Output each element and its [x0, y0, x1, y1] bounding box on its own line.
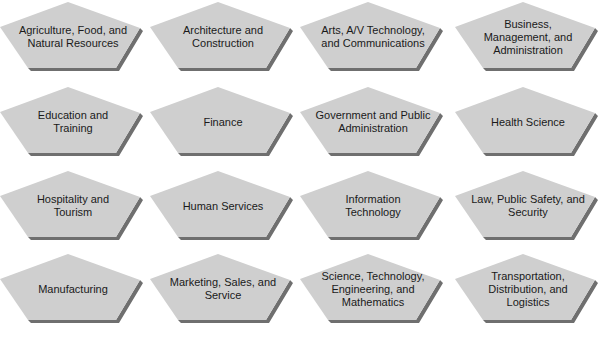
- cluster-label: Manufacturing: [10, 258, 136, 320]
- cluster-label: Finance: [160, 91, 286, 153]
- cluster-shape: Science, Technology, Engineering, and Ma…: [300, 254, 446, 328]
- cluster-shape: Finance: [150, 87, 296, 161]
- cluster-shape: Government and Public Administration: [300, 87, 446, 161]
- cluster-label: Human Services: [160, 175, 286, 237]
- figure-caption-cutoff: [110, 333, 410, 339]
- cluster-label: Arts, A/V Technology, and Communications: [310, 6, 436, 68]
- cluster-label: Science, Technology, Engineering, and Ma…: [310, 258, 436, 320]
- cluster-label: Marketing, Sales, and Service: [160, 258, 286, 320]
- cluster-shape: Human Services: [150, 171, 296, 245]
- cluster-shape: Architecture and Construction: [150, 2, 296, 76]
- cluster-shape: Education and Training: [0, 87, 146, 161]
- cluster-shape: Arts, A/V Technology, and Communications: [300, 2, 446, 76]
- cluster-label: Hospitality and Tourism: [10, 175, 136, 237]
- cluster-shape: Manufacturing: [0, 254, 146, 328]
- cluster-shape: Hospitality and Tourism: [0, 171, 146, 245]
- cluster-label: Information Technology: [310, 175, 436, 237]
- cluster-label: Government and Public Administration: [310, 91, 436, 153]
- cluster-shape: Agriculture, Food, and Natural Resources: [0, 2, 146, 76]
- cluster-shape: Law, Public Safety, and Security: [455, 171, 601, 245]
- cluster-label: Education and Training: [10, 91, 136, 153]
- cluster-label: Health Science: [465, 91, 591, 153]
- cluster-shape: Information Technology: [300, 171, 446, 245]
- cluster-label: Agriculture, Food, and Natural Resources: [10, 6, 136, 68]
- cluster-label: Law, Public Safety, and Security: [465, 175, 591, 237]
- cluster-shape: Marketing, Sales, and Service: [150, 254, 296, 328]
- cluster-label: Business, Management, and Administration: [465, 6, 591, 68]
- cluster-shape: Transportation, Distribution, and Logist…: [455, 254, 601, 328]
- cluster-label: Transportation, Distribution, and Logist…: [465, 258, 591, 320]
- cluster-label: Architecture and Construction: [160, 6, 286, 68]
- cluster-shape: Business, Management, and Administration: [455, 2, 601, 76]
- career-clusters-grid: Agriculture, Food, and Natural Resources…: [0, 0, 607, 339]
- cluster-shape: Health Science: [455, 87, 601, 161]
